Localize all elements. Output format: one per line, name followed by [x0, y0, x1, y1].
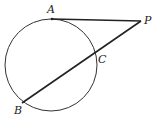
label-c: C [98, 53, 107, 66]
geometry-diagram: A P C B [0, 0, 156, 120]
tangent-segment-ap [52, 19, 141, 21]
circle [5, 19, 97, 111]
label-p: P [143, 14, 152, 27]
point-a-dot [51, 18, 54, 21]
label-b: B [13, 104, 22, 117]
secant-segment-pb [22, 21, 141, 103]
label-a: A [46, 3, 55, 16]
